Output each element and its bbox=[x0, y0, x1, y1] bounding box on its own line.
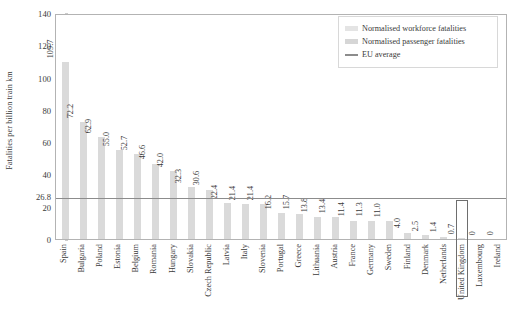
bar-value-label: 0.7 bbox=[448, 224, 456, 234]
x-axis-category-label: Bulgaria bbox=[78, 244, 86, 273]
x-axis-label-slot: Romania bbox=[145, 242, 163, 334]
bar bbox=[242, 204, 249, 239]
x-axis-category-label: Spain bbox=[60, 244, 68, 263]
x-axis-label-slot: Greece bbox=[290, 242, 308, 334]
x-axis-category-label: Austria bbox=[331, 244, 339, 268]
bar-value-label: 11.3 bbox=[356, 203, 364, 217]
y-axis-tick-label: 140 bbox=[38, 9, 51, 19]
x-axis-label-slot: Slovenia bbox=[254, 242, 272, 334]
bar-value-label: 13.8 bbox=[301, 198, 309, 213]
x-axis-label-slot: Netherlands bbox=[435, 242, 453, 334]
bar-slot: 30.6 bbox=[200, 15, 218, 239]
x-axis-label-slot: Spain bbox=[55, 242, 73, 334]
legend-item: Normalised passenger fatalities bbox=[345, 35, 491, 48]
bar bbox=[296, 214, 303, 239]
bar bbox=[350, 221, 357, 239]
bar bbox=[422, 235, 429, 239]
legend-color-swatch bbox=[345, 39, 358, 44]
bar bbox=[440, 237, 447, 239]
x-axis-label-slot: Belgium bbox=[127, 242, 145, 334]
bar-value-label: 42.0 bbox=[157, 153, 165, 168]
bar-value-label: 0 bbox=[487, 231, 495, 235]
x-axis-category-label: Italy bbox=[241, 244, 249, 259]
legend-item: Normalised workforce fatalities bbox=[345, 22, 491, 35]
x-axis-category-label: Luxembourg bbox=[476, 244, 484, 287]
x-axis-category-label: Finland bbox=[403, 244, 411, 269]
x-axis-category-label: Greece bbox=[295, 244, 303, 268]
bar-slot: 42.0 bbox=[164, 15, 182, 239]
y-axis-tick-label: 26.8 bbox=[36, 192, 51, 202]
eu-average-reference-line bbox=[56, 198, 506, 199]
bar bbox=[98, 137, 105, 239]
bar bbox=[404, 233, 411, 239]
bar bbox=[314, 217, 321, 239]
x-axis-label-slot: Latvia bbox=[218, 242, 236, 334]
bar-value-label: 11.0 bbox=[374, 203, 382, 217]
y-axis-tick-label: 0 bbox=[47, 235, 51, 245]
x-axis-category-label: Romania bbox=[150, 244, 158, 274]
bar-value-label: 16.2 bbox=[265, 194, 273, 209]
bar-value-label: 52.7 bbox=[121, 135, 129, 150]
x-axis-label-slot: United Kingdom bbox=[453, 242, 471, 334]
legend-color-swatch bbox=[345, 26, 358, 31]
x-axis-category-label: Portugal bbox=[277, 244, 285, 272]
x-axis-label-slot: Denmark bbox=[417, 242, 435, 334]
bar-value-label: 0 bbox=[469, 231, 477, 235]
bar-value-label: 1.4 bbox=[430, 222, 438, 232]
legend-item-label: Normalised workforce fatalities bbox=[362, 24, 466, 33]
x-axis-label-slot: Luxembourg bbox=[471, 242, 489, 334]
bar-value-label: 32.3 bbox=[175, 168, 183, 183]
x-axis-category-label: Netherlands bbox=[440, 244, 448, 284]
x-axis-category-label: Sweden bbox=[385, 244, 393, 270]
y-axis-tick-label: 40 bbox=[42, 170, 51, 180]
bar-value-label: 2.5 bbox=[412, 221, 420, 231]
bar-value-label: 22.4 bbox=[211, 184, 219, 199]
bar bbox=[386, 221, 393, 239]
bar bbox=[80, 122, 87, 239]
y-axis-tick-label: 80 bbox=[42, 106, 51, 116]
bar-value-label: 55.0 bbox=[103, 132, 111, 147]
x-axis-label-slot: Slovakia bbox=[182, 242, 200, 334]
bar bbox=[62, 62, 69, 239]
bar-value-label: 109.7 bbox=[47, 39, 55, 58]
bar-slot: 32.3 bbox=[182, 15, 200, 239]
x-axis-label-slot: Ireland bbox=[489, 242, 507, 334]
legend-item-label: Normalised passenger fatalities bbox=[362, 37, 465, 46]
bar-slot: 46.6 bbox=[146, 15, 164, 239]
bar-slot: 21.4 bbox=[236, 15, 254, 239]
x-axis-category-label: Lithuania bbox=[313, 244, 321, 276]
x-axis-category-label: Hungary bbox=[168, 244, 176, 273]
x-axis-category-label: Slovenia bbox=[259, 244, 267, 273]
bar bbox=[134, 154, 141, 239]
x-axis-category-label: Estonia bbox=[114, 244, 122, 269]
x-axis-category-labels: SpainBulgariaPolandEstoniaBelgiumRomania… bbox=[55, 242, 507, 334]
bar bbox=[188, 187, 195, 239]
bar-value-label: 13.4 bbox=[319, 199, 327, 214]
bar-slot: 109.7 bbox=[56, 15, 74, 239]
bar-slot: 22.4 bbox=[218, 15, 236, 239]
x-axis-label-slot: France bbox=[344, 242, 362, 334]
x-axis-category-label: Belgium bbox=[132, 244, 140, 273]
y-axis-title-text: Fatalities per billion train km bbox=[5, 71, 14, 170]
bar-slot: 62.9 bbox=[92, 15, 110, 239]
bar bbox=[368, 221, 375, 239]
x-axis-category-label: France bbox=[349, 244, 357, 267]
legend-item: EU average bbox=[345, 48, 491, 61]
chart-legend: Normalised workforce fatalitiesNormalise… bbox=[338, 16, 498, 68]
legend-item-label: EU average bbox=[362, 50, 400, 59]
y-axis-tick-label: 20 bbox=[42, 203, 51, 213]
x-axis-category-label: Germany bbox=[367, 244, 375, 275]
y-axis-tick-label: 60 bbox=[42, 138, 51, 148]
x-axis-category-label: United Kingdom bbox=[458, 244, 466, 300]
x-axis-label-slot: Lithuania bbox=[308, 242, 326, 334]
bar-value-label: 62.9 bbox=[85, 119, 93, 134]
bar bbox=[152, 164, 159, 239]
x-axis-label-slot: Hungary bbox=[163, 242, 181, 334]
bar-value-label: 11.4 bbox=[338, 202, 346, 216]
bar-value-label: 4.0 bbox=[394, 218, 402, 228]
x-axis-category-label: Denmark bbox=[421, 244, 429, 275]
bar bbox=[458, 238, 465, 239]
x-axis-category-label: Czech Republic bbox=[205, 244, 213, 297]
x-axis-category-label: Latvia bbox=[223, 244, 231, 265]
x-axis-category-label: Slovakia bbox=[186, 244, 194, 273]
